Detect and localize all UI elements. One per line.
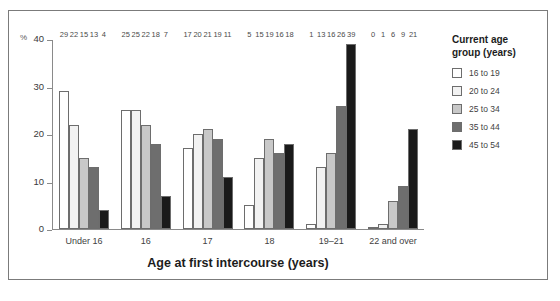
bar[interactable]: 25	[121, 110, 131, 229]
bar-value-label: 1	[381, 30, 385, 39]
legend-items: 16 to 1920 to 2425 to 3435 to 4445 to 54	[452, 68, 544, 150]
bar-slot: 15	[254, 40, 264, 229]
bar-group: 51519161818	[238, 40, 300, 229]
bar-value-label: 21	[409, 30, 417, 39]
bar[interactable]: 5	[244, 205, 254, 229]
bar[interactable]: 13	[89, 167, 99, 229]
bar[interactable]: 16	[326, 153, 336, 229]
bar-slot: 7	[161, 40, 171, 229]
bar-value-label: 25	[132, 30, 140, 39]
bar-slot: 22	[141, 40, 151, 229]
legend-item[interactable]: 45 to 54	[452, 140, 544, 150]
x-axis-title: Age at first intercourse (years)	[52, 256, 424, 270]
bar-slot: 13	[316, 40, 326, 229]
bar-value-label: 7	[164, 30, 168, 39]
bar-slot: 18	[151, 40, 161, 229]
bar[interactable]: 7	[161, 196, 171, 229]
legend-swatch	[452, 122, 462, 132]
bar-value-label: 19	[213, 30, 221, 39]
x-axis-group-label: 17	[203, 236, 213, 246]
bar-slot: 13	[89, 40, 99, 229]
bar-slot: 20	[193, 40, 203, 229]
bar[interactable]: 20	[193, 134, 203, 229]
bar-slot: 17	[183, 40, 193, 229]
bar[interactable]: 16	[274, 153, 284, 229]
chart-figure: % 010203040 292215134Under 1625252218716…	[0, 0, 560, 301]
bar-value-label: 15	[80, 30, 88, 39]
x-axis-group-label: 19–21	[319, 236, 344, 246]
x-axis-group-label: Under 16	[65, 236, 102, 246]
bar-slot: 19	[213, 40, 223, 229]
bar-value-label: 0	[371, 30, 375, 39]
bar-value-label: 18	[152, 30, 160, 39]
bar[interactable]: 21	[203, 129, 213, 229]
x-axis-group-label: 16	[141, 236, 151, 246]
bar[interactable]: 22	[69, 125, 79, 230]
bar[interactable]: 15	[254, 158, 264, 229]
bar[interactable]: 18	[284, 144, 294, 230]
bar-slot: 21	[408, 40, 418, 229]
legend-title: Current age group (years)	[452, 34, 544, 59]
bar-slot: 19	[264, 40, 274, 229]
bar[interactable]: 19	[213, 139, 223, 229]
bar-value-label: 9	[401, 30, 405, 39]
bar-value-label: 1	[309, 30, 313, 39]
bar-slot: 21	[203, 40, 213, 229]
bar-slot: 1	[378, 40, 388, 229]
bar-value-label: 18	[285, 30, 293, 39]
bar[interactable]: 18	[151, 144, 161, 230]
bar-slot: 0	[368, 40, 378, 229]
bar-group: 01692122 and over	[362, 40, 424, 229]
legend-item[interactable]: 16 to 19	[452, 68, 544, 78]
bar[interactable]: 4	[99, 210, 109, 229]
bar[interactable]: 9	[398, 186, 408, 229]
bar-slot: 6	[388, 40, 398, 229]
bar-slot: 5	[244, 40, 254, 229]
bar[interactable]: 29	[59, 91, 69, 229]
bar-slot: 11	[223, 40, 233, 229]
plot-area: 010203040 292215134Under 162525221871617…	[52, 40, 424, 230]
bar-slot: 18	[284, 40, 294, 229]
bar-slot: 16	[274, 40, 284, 229]
bar[interactable]: 26	[336, 106, 346, 230]
legend-item-label: 20 to 24	[469, 86, 500, 96]
bar-group: 172021191117	[177, 40, 239, 229]
bar-value-label: 15	[255, 30, 263, 39]
y-axis-tick-label: 0	[39, 223, 44, 234]
bar-slot: 39	[346, 40, 356, 229]
bar[interactable]: 15	[79, 158, 89, 229]
bar[interactable]: 11	[223, 177, 233, 229]
bar-group: 292215134Under 16	[53, 40, 115, 229]
bar[interactable]: 17	[183, 148, 193, 229]
bar-groups: 292215134Under 1625252218716172021191117…	[53, 40, 424, 229]
bar[interactable]: 6	[388, 201, 398, 230]
bar-slot: 25	[121, 40, 131, 229]
bar-value-label: 22	[142, 30, 150, 39]
bar-slot: 15	[79, 40, 89, 229]
bar-value-label: 20	[193, 30, 201, 39]
legend-item[interactable]: 20 to 24	[452, 86, 544, 96]
bar[interactable]: 13	[316, 167, 326, 229]
bar[interactable]: 22	[141, 125, 151, 230]
legend-swatch	[452, 104, 462, 114]
legend-item[interactable]: 35 to 44	[452, 122, 544, 132]
bar-slot: 22	[69, 40, 79, 229]
bar-value-label: 6	[391, 30, 395, 39]
bar[interactable]: 1	[378, 224, 388, 229]
bar-value-label: 21	[203, 30, 211, 39]
bar-slot: 9	[398, 40, 408, 229]
bar[interactable]: 0	[368, 227, 378, 229]
bar-slot: 4	[99, 40, 109, 229]
bar-value-label: 11	[224, 30, 232, 39]
bar[interactable]: 1	[306, 224, 316, 229]
bar[interactable]: 39	[346, 44, 356, 229]
bar-group: 25252218716	[115, 40, 177, 229]
bar[interactable]: 25	[131, 110, 141, 229]
y-axis-tick-mark	[47, 88, 52, 89]
legend-item-label: 25 to 34	[469, 104, 500, 114]
y-axis-tick-mark	[47, 230, 52, 231]
bar[interactable]: 21	[408, 129, 418, 229]
bar-value-label: 13	[317, 30, 325, 39]
bar[interactable]: 19	[264, 139, 274, 229]
legend-item[interactable]: 25 to 34	[452, 104, 544, 114]
